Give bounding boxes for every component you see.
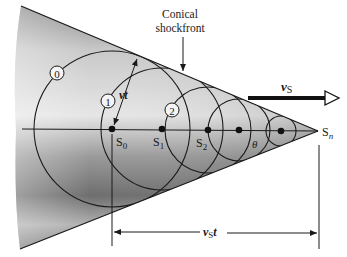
shockfront-label-line1: Conical [162, 8, 198, 20]
source-dot-2 [205, 127, 212, 134]
mach-cone-diagram: vt 0 1 2 S0 S1 S2 θ Sn Conical shockfron… [0, 0, 347, 257]
svg-text:0: 0 [54, 68, 60, 80]
vt-label: vt [119, 88, 128, 102]
velocity-label: vS [281, 79, 292, 95]
apex-label: Sn [322, 125, 334, 141]
velocity-arrow [248, 91, 339, 105]
svg-text:1: 1 [105, 96, 111, 108]
angle-label: θ [252, 138, 258, 150]
wavefront-label-2: 2 [165, 103, 179, 117]
source-dot-0 [109, 126, 116, 133]
source-dot-1 [159, 126, 166, 133]
source-dot-3 [236, 127, 243, 134]
svg-text:2: 2 [169, 105, 175, 117]
source-distance-label: vSt [203, 225, 217, 240]
shockfront-label-line2: shockfront [155, 22, 205, 34]
wavefront-label-0: 0 [50, 66, 64, 80]
shock-cone [15, 6, 318, 249]
wavefront-label-1: 1 [101, 94, 115, 108]
source-dot-4 [278, 128, 285, 135]
